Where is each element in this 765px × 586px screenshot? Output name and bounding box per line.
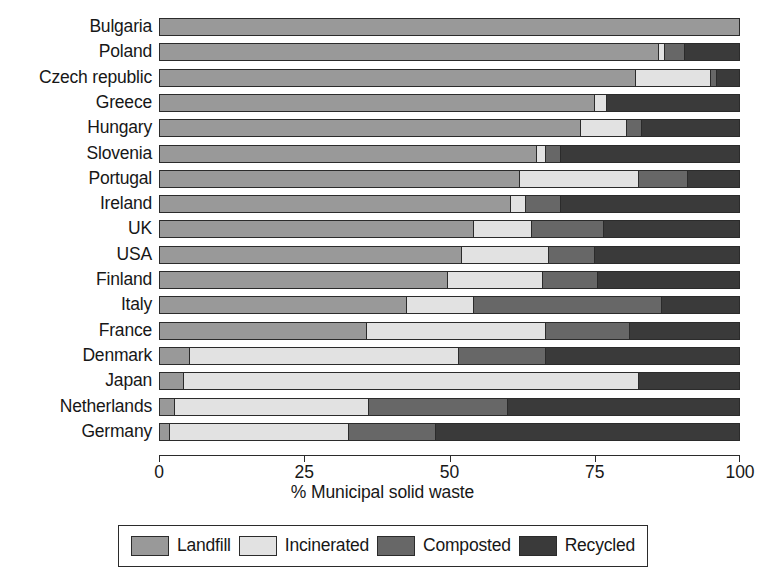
bar-segment-recycled xyxy=(560,196,740,212)
bar-segment-landfill xyxy=(160,19,739,35)
bar-segment-landfill xyxy=(160,373,183,389)
bars-container xyxy=(159,14,740,444)
legend-label: Landfill xyxy=(177,537,231,555)
stacked-bar-chart: BulgariaPolandCzech republicGreeceHungar… xyxy=(0,0,765,586)
chart-legend: LandfillIncineratedCompostedRecycled xyxy=(118,525,648,567)
bar-segment-composted xyxy=(542,272,597,288)
bar-segment-landfill xyxy=(160,323,366,339)
y-axis-label: Slovenia xyxy=(0,145,152,163)
legend-item: Composted xyxy=(377,536,511,556)
bar-segment-landfill xyxy=(160,171,519,187)
bar-segment-incinerated xyxy=(635,70,710,86)
bar-segment-landfill xyxy=(160,196,510,212)
x-axis-ticks: 0255075100 xyxy=(159,455,740,485)
bar-segment-incinerated xyxy=(183,373,638,389)
plot-area: BulgariaPolandCzech republicGreeceHungar… xyxy=(0,14,765,454)
bar-segment-composted xyxy=(545,146,559,162)
y-axis-label: Greece xyxy=(0,94,152,112)
bar-segment-landfill xyxy=(160,247,461,263)
y-axis-label: Portugal xyxy=(0,170,152,188)
bar-row xyxy=(159,296,740,314)
bar-segment-incinerated xyxy=(510,196,524,212)
bar-row xyxy=(159,220,740,238)
bar-segment-landfill xyxy=(160,221,473,237)
bar-segment-composted xyxy=(548,247,594,263)
bar-row xyxy=(159,119,740,137)
x-axis-tick-label: 25 xyxy=(295,464,314,482)
bar-segment-incinerated xyxy=(580,120,626,136)
bar-row xyxy=(159,145,740,163)
y-axis-label: Germany xyxy=(0,423,152,441)
y-axis-category-labels: BulgariaPolandCzech republicGreeceHungar… xyxy=(0,14,152,444)
bar-row xyxy=(159,69,740,87)
y-axis-label: Italy xyxy=(0,296,152,314)
legend-item: Landfill xyxy=(131,536,231,556)
bar-segment-recycled xyxy=(435,424,739,440)
legend-item: Recycled xyxy=(519,536,635,556)
bar-segment-recycled xyxy=(545,348,739,364)
y-axis-label: Denmark xyxy=(0,347,152,365)
bar-row xyxy=(159,94,740,112)
bar-row xyxy=(159,18,740,36)
bar-segment-composted xyxy=(664,44,684,60)
x-axis-tick-label: 100 xyxy=(725,464,754,482)
y-axis-label: Netherlands xyxy=(0,398,152,416)
y-axis-label: Japan xyxy=(0,372,152,390)
legend-item: Incinerated xyxy=(239,536,369,556)
x-axis-title: % Municipal solid waste xyxy=(0,482,765,503)
bar-segment-incinerated xyxy=(473,221,531,237)
bar-segment-recycled xyxy=(641,120,739,136)
bar-segment-recycled xyxy=(638,373,739,389)
bar-segment-landfill xyxy=(160,399,174,415)
legend-swatch xyxy=(519,536,557,556)
bar-row xyxy=(159,322,740,340)
bar-segment-composted xyxy=(626,120,640,136)
bar-row xyxy=(159,43,740,61)
x-axis-tick xyxy=(450,455,451,462)
legend-swatch xyxy=(131,536,169,556)
bar-row xyxy=(159,195,740,213)
bar-segment-landfill xyxy=(160,348,189,364)
legend-swatch xyxy=(377,536,415,556)
bar-segment-recycled xyxy=(597,272,739,288)
bar-segment-incinerated xyxy=(536,146,545,162)
y-axis-label: Poland xyxy=(0,43,152,61)
bar-row xyxy=(159,372,740,390)
x-axis-tick xyxy=(159,455,160,462)
bar-segment-landfill xyxy=(160,120,580,136)
bar-segment-incinerated xyxy=(189,348,458,364)
legend-label: Recycled xyxy=(565,537,635,555)
bar-row xyxy=(159,347,740,365)
y-axis-label: Finland xyxy=(0,271,152,289)
bar-segment-landfill xyxy=(160,146,536,162)
bar-segment-landfill xyxy=(160,272,447,288)
bar-segment-landfill xyxy=(160,44,658,60)
x-axis-tick xyxy=(304,455,305,462)
y-axis-label: USA xyxy=(0,246,152,264)
legend-label: Incinerated xyxy=(285,537,369,555)
y-axis-label: Ireland xyxy=(0,195,152,213)
bar-segment-landfill xyxy=(160,95,594,111)
bar-segment-landfill xyxy=(160,297,406,313)
bar-segment-incinerated xyxy=(169,424,349,440)
bar-segment-recycled xyxy=(629,323,739,339)
bar-row xyxy=(159,170,740,188)
bar-segment-recycled xyxy=(594,247,739,263)
y-axis-label: Hungary xyxy=(0,119,152,137)
bar-segment-composted xyxy=(473,297,661,313)
bar-segment-incinerated xyxy=(447,272,543,288)
bar-segment-composted xyxy=(545,323,629,339)
x-axis-tick-label: 75 xyxy=(585,464,604,482)
bar-segment-landfill xyxy=(160,70,635,86)
bar-row xyxy=(159,398,740,416)
bar-segment-incinerated xyxy=(519,171,638,187)
bar-segment-recycled xyxy=(606,95,739,111)
bar-segment-composted xyxy=(458,348,545,364)
bar-segment-recycled xyxy=(661,297,739,313)
x-axis-tick-label: 50 xyxy=(440,464,459,482)
bar-segment-composted xyxy=(531,221,603,237)
bar-segment-landfill xyxy=(160,424,169,440)
legend-swatch xyxy=(239,536,277,556)
bar-segment-recycled xyxy=(687,171,739,187)
bar-segment-recycled xyxy=(684,44,739,60)
